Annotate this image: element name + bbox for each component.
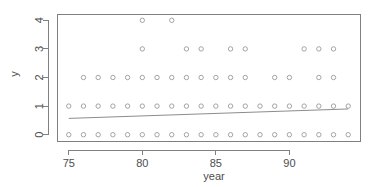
data-point xyxy=(67,133,71,137)
data-point xyxy=(96,104,100,108)
data-point xyxy=(81,75,85,79)
data-point xyxy=(317,47,321,51)
data-points-layer xyxy=(67,18,351,137)
plot-canvas: 75808590 01234 year y xyxy=(0,0,372,187)
data-point xyxy=(287,133,291,137)
data-point xyxy=(199,75,203,79)
data-point xyxy=(258,104,262,108)
data-point xyxy=(155,104,159,108)
data-point xyxy=(346,133,350,137)
panel-border xyxy=(57,14,360,141)
y-tick-label: 2 xyxy=(33,74,45,80)
data-point xyxy=(228,133,232,137)
data-point xyxy=(111,133,115,137)
data-point xyxy=(81,104,85,108)
data-point xyxy=(155,75,159,79)
data-point xyxy=(155,133,159,137)
data-point xyxy=(67,104,71,108)
data-point xyxy=(272,104,276,108)
data-point xyxy=(331,104,335,108)
data-point xyxy=(302,47,306,51)
data-point xyxy=(258,133,262,137)
y-tick-label: 0 xyxy=(33,132,45,138)
data-point xyxy=(243,47,247,51)
x-tick-label: 75 xyxy=(63,157,75,169)
data-point xyxy=(243,75,247,79)
data-point xyxy=(214,104,218,108)
data-point xyxy=(228,75,232,79)
data-point xyxy=(140,133,144,137)
data-point xyxy=(111,104,115,108)
data-point xyxy=(243,133,247,137)
data-point xyxy=(184,75,188,79)
data-point xyxy=(302,104,306,108)
data-point xyxy=(96,133,100,137)
data-point xyxy=(184,133,188,137)
data-point xyxy=(170,75,174,79)
data-point xyxy=(331,133,335,137)
data-point xyxy=(125,75,129,79)
data-point xyxy=(170,104,174,108)
data-point xyxy=(317,133,321,137)
data-point xyxy=(81,133,85,137)
data-point xyxy=(199,133,203,137)
x-tick-label: 85 xyxy=(210,157,222,169)
y-tick-label: 4 xyxy=(33,17,45,23)
data-point xyxy=(331,47,335,51)
x-axis-title: year xyxy=(203,170,225,182)
data-point xyxy=(199,47,203,51)
y-tick-label: 3 xyxy=(33,46,45,52)
data-point xyxy=(228,104,232,108)
data-point xyxy=(140,47,144,51)
data-point xyxy=(140,18,144,22)
y-tick-label: 1 xyxy=(33,103,45,109)
data-point xyxy=(346,104,350,108)
data-point xyxy=(199,104,203,108)
y-axis-title: y xyxy=(8,71,20,77)
data-point xyxy=(96,75,100,79)
fitted-line xyxy=(69,109,348,118)
x-tick-label: 80 xyxy=(136,157,148,169)
scatter-plot-figure: 75808590 01234 year y xyxy=(0,0,372,187)
data-point xyxy=(214,75,218,79)
data-point xyxy=(125,104,129,108)
data-point xyxy=(140,75,144,79)
data-point xyxy=(170,18,174,22)
data-point xyxy=(214,133,218,137)
data-point xyxy=(140,104,144,108)
data-point xyxy=(287,104,291,108)
x-axis: 75808590 xyxy=(63,150,296,169)
data-point xyxy=(272,133,276,137)
data-point xyxy=(170,133,174,137)
data-point xyxy=(184,104,188,108)
data-point xyxy=(228,47,232,51)
y-axis: 01234 xyxy=(33,17,48,138)
data-point xyxy=(184,47,188,51)
data-point xyxy=(125,133,129,137)
data-point xyxy=(287,75,291,79)
data-point xyxy=(331,75,335,79)
plot-panel xyxy=(57,14,360,141)
data-point xyxy=(317,75,321,79)
fitted-regression-line xyxy=(69,109,348,118)
x-tick-label: 90 xyxy=(283,157,295,169)
data-point xyxy=(111,75,115,79)
data-point xyxy=(272,75,276,79)
data-point xyxy=(302,133,306,137)
data-point xyxy=(243,104,247,108)
data-point xyxy=(317,104,321,108)
